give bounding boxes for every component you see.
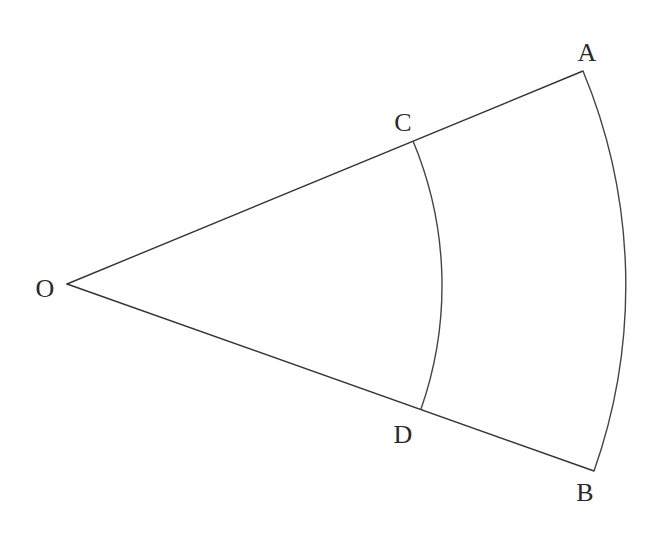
sector-diagram: O A B C D [0, 0, 664, 533]
label-B: B [576, 478, 593, 507]
arc-AB [583, 71, 626, 471]
diagram-svg: O A B C D [0, 0, 664, 533]
segment-OB [67, 284, 594, 471]
segment-OA [67, 71, 583, 284]
label-O: O [36, 274, 55, 303]
label-D: D [394, 420, 413, 449]
label-A: A [578, 38, 597, 67]
label-C: C [394, 108, 411, 137]
arc-CD [413, 141, 442, 409]
